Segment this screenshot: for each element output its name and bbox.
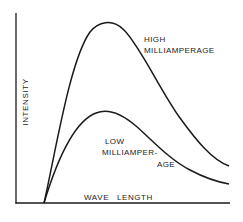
high-curve-label-line1: HIGH — [144, 35, 166, 45]
high-curve-label-line2: MILLIAMPERAGE — [144, 46, 215, 56]
low-curve-label-line3: AGE — [157, 160, 175, 170]
intensity-wavelength-chart: INTENSITY WAVE LENGTH HIGH MILLIAMPERAGE… — [0, 0, 243, 222]
low-curve-label-line2: MILLIAMPER- — [102, 148, 158, 158]
chart-plot-area — [0, 0, 243, 222]
y-axis-label: INTENSITY — [21, 78, 30, 125]
low-curve-label-line1: LOW — [105, 137, 124, 147]
x-axis-label: WAVE LENGTH — [84, 193, 153, 202]
